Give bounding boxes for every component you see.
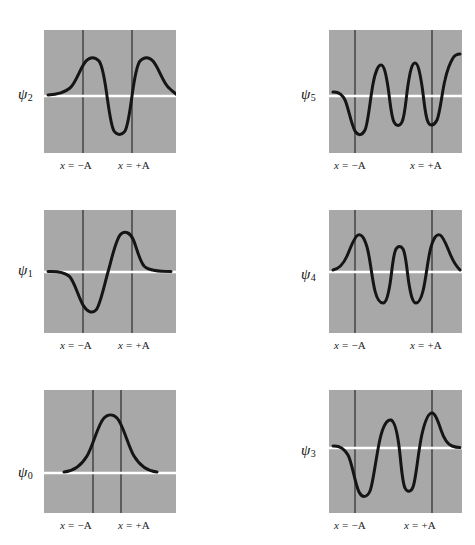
xlabel-value: −A: [351, 339, 366, 351]
psi-label-psi-3: ψ3: [301, 443, 316, 459]
xlabel-value: +A: [421, 519, 436, 531]
xlabel-value: −A: [351, 159, 366, 171]
xlabel-left-wall-psi-4: x = −A: [334, 340, 366, 351]
wavefunction-plot-psi-0: [44, 390, 176, 513]
psi-subscript: 5: [310, 92, 316, 103]
xlabel-right-wall-psi-2: x = +A: [118, 160, 150, 171]
psi-subscript: 3: [310, 448, 316, 459]
xlabel-value: +A: [427, 339, 442, 351]
wavefunction-curve-psi-3: [333, 413, 460, 496]
xlabel-value: −A: [77, 519, 92, 531]
xlabel-right-wall-psi-1: x = +A: [118, 340, 150, 351]
psi-label-psi-2: ψ2: [18, 87, 33, 103]
psi-subscript: 0: [27, 470, 33, 481]
xlabel-left-wall-psi-3: x = −A: [334, 520, 366, 531]
psi-label-psi-5: ψ5: [301, 87, 316, 103]
xlabel-equals: =: [409, 519, 421, 531]
plot-area-psi-2: [44, 30, 176, 153]
wavefunction-plot-psi-4: [329, 210, 462, 333]
xlabel-equals: =: [415, 339, 427, 351]
xlabel-value: +A: [427, 159, 442, 171]
psi-symbol: ψ: [301, 442, 310, 458]
psi-symbol: ψ: [301, 266, 310, 282]
wavefunction-curve-psi-0: [64, 415, 157, 472]
xlabel-equals: =: [339, 339, 351, 351]
psi-subscript: 2: [27, 92, 33, 103]
xlabel-left-wall-psi-2: x = −A: [60, 160, 92, 171]
psi-subscript: 4: [310, 272, 316, 283]
psi-symbol: ψ: [18, 464, 27, 480]
xlabel-equals: =: [415, 159, 427, 171]
xlabel-equals: =: [65, 339, 77, 351]
plot-area-psi-3: [329, 390, 462, 513]
xlabel-equals: =: [339, 519, 351, 531]
xlabel-left-wall-psi-1: x = −A: [60, 340, 92, 351]
wavefunction-curve-psi-4: [333, 235, 460, 303]
psi-symbol: ψ: [301, 86, 310, 102]
xlabel-equals: =: [65, 519, 77, 531]
psi-symbol: ψ: [18, 262, 27, 278]
wavefunction-figure: ψ2 x = −A x = +A ψ1 x = −A x = +A ψ0: [0, 0, 475, 545]
xlabel-equals: =: [339, 159, 351, 171]
xlabel-value: +A: [135, 519, 150, 531]
wavefunction-plot-psi-2: [44, 30, 176, 153]
xlabel-left-wall-psi-5: x = −A: [334, 160, 366, 171]
xlabel-value: −A: [351, 519, 366, 531]
plot-area-psi-4: [329, 210, 462, 333]
xlabel-equals: =: [123, 159, 135, 171]
xlabel-value: −A: [77, 339, 92, 351]
xlabel-right-wall-psi-5: x = +A: [410, 160, 442, 171]
xlabel-right-wall-psi-0: x = +A: [118, 520, 150, 531]
wavefunction-curve-psi-5-segment-a: [333, 54, 460, 135]
psi-symbol: ψ: [18, 86, 27, 102]
wavefunction-plot-psi-3: [329, 390, 462, 513]
psi-label-psi-4: ψ4: [301, 267, 316, 283]
xlabel-value: +A: [135, 159, 150, 171]
xlabel-equals: =: [123, 519, 135, 531]
xlabel-right-wall-psi-4: x = +A: [410, 340, 442, 351]
psi-subscript: 1: [27, 268, 33, 279]
plot-area-psi-1: [44, 210, 176, 333]
plot-area-psi-5: [329, 30, 462, 153]
psi-label-psi-1: ψ1: [18, 263, 33, 279]
psi-label-psi-0: ψ0: [18, 465, 33, 481]
xlabel-equals: =: [123, 339, 135, 351]
xlabel-value: +A: [135, 339, 150, 351]
xlabel-right-wall-psi-3: x = +A: [404, 520, 436, 531]
xlabel-value: −A: [77, 159, 92, 171]
wavefunction-plot-psi-1: [44, 210, 176, 333]
wavefunction-plot-psi-5: [329, 30, 462, 153]
plot-area-psi-0: [44, 390, 176, 513]
xlabel-left-wall-psi-0: x = −A: [60, 520, 92, 531]
xlabel-equals: =: [65, 159, 77, 171]
